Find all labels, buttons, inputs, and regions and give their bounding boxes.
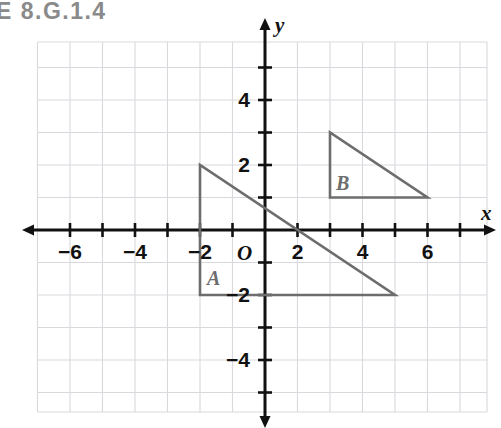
y-tick-label-minus2: −2 bbox=[226, 283, 250, 306]
y-tick-label-minus4: −4 bbox=[226, 348, 250, 371]
shape-label-a: A bbox=[205, 267, 220, 289]
x-tick-label-minus6: −6 bbox=[58, 240, 82, 263]
x-tick-label-6: 6 bbox=[422, 240, 434, 263]
coordinate-plane-svg: A B y x O −6 −4 −2 2 4 6 4 2 −2 −4 bbox=[0, 0, 501, 428]
y-axis-label: y bbox=[272, 13, 285, 37]
graph-screenshot: E 8.G.1.4 bbox=[0, 0, 501, 428]
axes bbox=[26, 22, 492, 424]
x-tick-label-minus2: −2 bbox=[188, 240, 212, 263]
x-axis-arrow-right bbox=[484, 225, 496, 236]
grid-lines bbox=[38, 42, 488, 412]
y-tick-label-2: 2 bbox=[238, 153, 250, 176]
axis-arrowheads bbox=[22, 18, 496, 428]
coordinate-plane: A B y x O −6 −4 −2 2 4 6 4 2 −2 −4 bbox=[0, 0, 501, 428]
x-axis-arrow-left bbox=[22, 225, 34, 236]
x-tick-label-4: 4 bbox=[357, 240, 369, 263]
y-axis-arrow-down bbox=[260, 416, 271, 428]
shape-label-b: B bbox=[335, 172, 349, 194]
y-axis-arrow-up bbox=[260, 18, 271, 30]
x-tick-label-2: 2 bbox=[292, 240, 304, 263]
x-axis-label: x bbox=[480, 201, 492, 225]
origin-label: O bbox=[237, 241, 252, 265]
x-tick-label-minus4: −4 bbox=[123, 240, 147, 263]
y-tick-label-4: 4 bbox=[238, 88, 250, 111]
